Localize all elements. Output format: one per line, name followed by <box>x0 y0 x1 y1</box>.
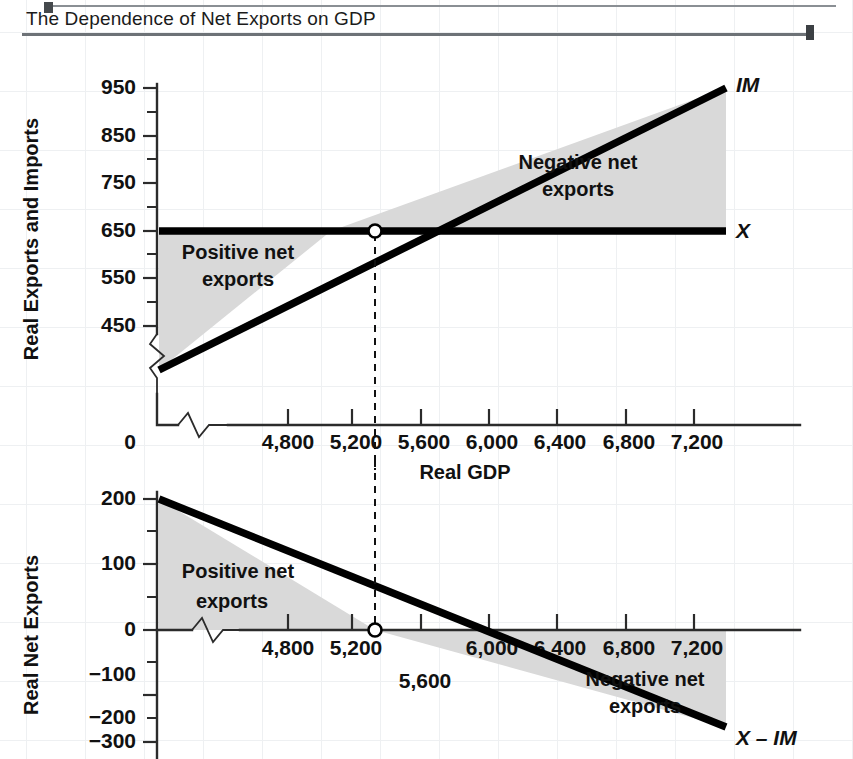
xtick-label-bottom-4800: 4,800 <box>262 636 315 659</box>
curve-label-X: X <box>735 219 752 242</box>
ytick-label-top-750: 750 <box>101 170 136 193</box>
chart-exports-imports: 950 850 750 650 550 450 Real Exports and… <box>0 44 853 470</box>
ytick-label-bottom-100: 100 <box>101 551 136 574</box>
equilibrium-point-bottom <box>369 624 382 637</box>
equilibrium-point-top <box>369 225 382 238</box>
ytick-label-top-650: 650 <box>101 218 136 241</box>
curve-label-IM: IM <box>736 73 760 96</box>
y-ticks-major-bottom <box>143 499 157 742</box>
xtick-label-top-4800: 4,800 <box>262 430 315 453</box>
positive-net-exports-label-top-line2: exports <box>202 268 274 290</box>
y-axis-title-top: Real Exports and Imports <box>20 118 42 360</box>
x-ticks-top <box>288 409 694 425</box>
xtick-label-top-origin: 0 <box>124 430 136 453</box>
header-marker-right <box>806 25 814 40</box>
positive-net-exports-label-bottom-line2: exports <box>196 590 268 612</box>
ytick-label-bottom-neg300: −300 <box>89 729 136 752</box>
x-axis-top <box>157 394 178 425</box>
y-ticks-minor-top <box>147 112 157 302</box>
positive-net-exports-label-bottom-line1: Positive net <box>182 560 295 582</box>
positive-net-exports-label-top-line1: Positive net <box>182 241 295 263</box>
xtick-label-top-6800: 6,800 <box>603 430 656 453</box>
figure-title: The Dependence of Net Exports on GDP <box>26 8 376 30</box>
xtick-label-bottom-5600: 5,600 <box>399 669 452 692</box>
negative-net-exports-label-top-line2: exports <box>542 178 614 200</box>
xtick-label-bottom-7200: 7,200 <box>671 636 724 659</box>
ytick-label-top-850: 850 <box>101 123 136 146</box>
negative-net-exports-label-bottom-line1: Negative net <box>586 668 705 690</box>
figure-header: The Dependence of Net Exports on GDP <box>0 0 853 44</box>
ytick-label-bottom-0: 0 <box>124 617 136 640</box>
chart-net-exports: 200 100 0 −100 −200 −300 Real Net Export… <box>0 470 853 759</box>
ytick-label-bottom-200: 200 <box>101 486 136 509</box>
header-rule-bottom <box>22 33 812 36</box>
x-axis-break-top <box>178 413 228 437</box>
xtick-label-top-5600: 5,600 <box>398 430 451 453</box>
negative-net-exports-label-top-line1: Negative net <box>519 151 638 173</box>
curve-label-X-minus-IM: X – IM <box>735 726 797 749</box>
header-rule-top <box>46 5 836 7</box>
ytick-label-bottom-neg100: −100 <box>89 662 136 685</box>
xtick-label-top-6400: 6,400 <box>534 430 587 453</box>
y-ticks-minor-bottom <box>147 531 157 718</box>
ytick-label-top-950: 950 <box>101 75 136 98</box>
xtick-label-top-7200: 7,200 <box>671 430 724 453</box>
xtick-label-bottom-6800: 6,800 <box>603 636 656 659</box>
ytick-label-bottom-neg200: −200 <box>89 705 136 728</box>
xtick-label-top-6000: 6,000 <box>466 430 519 453</box>
ytick-label-top-450: 450 <box>101 313 136 336</box>
y-axis-title-bottom: Real Net Exports <box>20 555 42 715</box>
ytick-label-top-550: 550 <box>101 265 136 288</box>
negative-net-exports-label-bottom-line2: exports <box>609 695 681 717</box>
xtick-label-bottom-5200: 5,200 <box>330 636 383 659</box>
